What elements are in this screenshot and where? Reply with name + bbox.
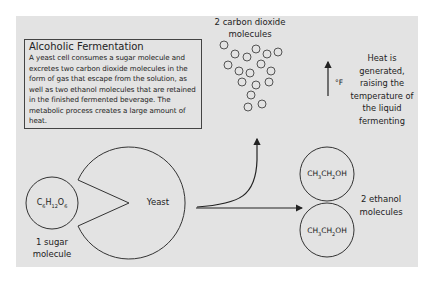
sugar-formula: C6H12O6 xyxy=(30,198,74,211)
co2-label-line: molecules xyxy=(205,28,295,40)
formula-sub: 6 xyxy=(64,203,67,209)
sugar-label-line: molecule xyxy=(24,248,80,260)
formula-part: CH xyxy=(321,226,332,235)
formula-part: CH xyxy=(307,226,318,235)
sugar-label-line: 1 sugar xyxy=(24,236,80,248)
heat-description: Heat is generated, raising the temperatu… xyxy=(346,52,418,127)
co2-label: 2 carbon dioxide molecules xyxy=(205,16,295,40)
ethanol-label-line: 2 ethanol xyxy=(353,193,409,206)
co2-bubbles-icon xyxy=(220,41,282,111)
heat-line: fermenting xyxy=(346,115,418,128)
yeast-label: Yeast xyxy=(138,197,178,207)
ethanol-label: 2 ethanol molecules xyxy=(353,193,409,219)
sugar-label: 1 sugar molecule xyxy=(24,236,80,260)
formula-part: OH xyxy=(335,169,347,178)
formula-part: CH xyxy=(307,169,318,178)
heat-line: raising the xyxy=(346,77,418,90)
heat-line: generated, xyxy=(346,65,418,78)
ethanol-formula-2: CH3CH2OH xyxy=(300,226,354,239)
heat-line: temperature of xyxy=(346,90,418,103)
formula-part: CH xyxy=(321,169,332,178)
arrow-to-co2-icon xyxy=(197,139,257,207)
co2-label-line: 2 carbon dioxide xyxy=(205,16,295,28)
heat-line: Heat is xyxy=(346,52,418,65)
temperature-unit: °F xyxy=(332,78,346,88)
ethanol-label-line: molecules xyxy=(353,206,409,219)
formula-part: OH xyxy=(335,226,347,235)
heat-line: the liquid xyxy=(346,102,418,115)
ethanol-formula-1: CH3CH2OH xyxy=(300,169,354,182)
